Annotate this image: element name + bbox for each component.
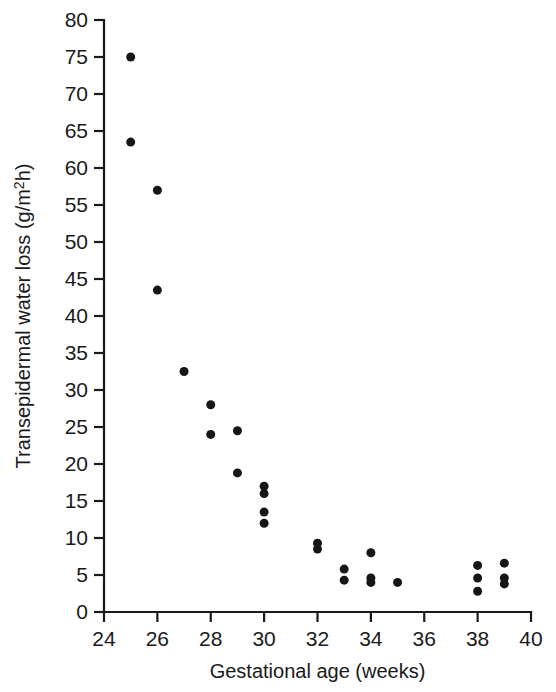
y-tick-label: 50 [65, 230, 88, 253]
data-point [473, 573, 482, 582]
data-point [500, 559, 509, 568]
plot-canvas: 05101520253035404550556065707580 2426283… [0, 0, 556, 692]
y-tick-label: 25 [65, 415, 88, 438]
data-point [260, 489, 269, 498]
data-point [340, 565, 349, 574]
data-point-layer [126, 53, 509, 596]
data-point [206, 400, 215, 409]
y-tick-label: 70 [65, 82, 88, 105]
data-point [340, 576, 349, 585]
y-tick-label: 60 [65, 156, 88, 179]
data-point [473, 561, 482, 570]
data-point [180, 367, 189, 376]
x-tick-label: 40 [519, 627, 542, 650]
data-point [366, 548, 375, 557]
data-point [233, 468, 242, 477]
y-tick-label: 45 [65, 267, 88, 290]
data-point [500, 579, 509, 588]
y-tick-label: 5 [76, 563, 88, 586]
x-axis: 242628303234363840 [92, 612, 542, 650]
y-tick-label: 0 [76, 600, 88, 623]
x-tick-label: 34 [359, 627, 383, 650]
data-point [126, 138, 135, 147]
data-point [393, 578, 402, 587]
x-tick-label: 30 [252, 627, 275, 650]
x-tick-label: 38 [466, 627, 489, 650]
x-tick-label: 26 [146, 627, 169, 650]
y-tick-label: 10 [65, 526, 88, 549]
data-point [313, 545, 322, 554]
y-tick-label: 75 [65, 45, 88, 68]
x-tick-label: 32 [306, 627, 329, 650]
data-point [473, 587, 482, 596]
data-point [260, 508, 269, 517]
y-tick-label: 80 [65, 8, 88, 31]
data-point [366, 578, 375, 587]
x-axis-title: Gestational age (weeks) [210, 660, 426, 682]
y-tick-label: 55 [65, 193, 88, 216]
scatter-plot-figure: 05101520253035404550556065707580 2426283… [0, 0, 556, 692]
y-tick-label: 15 [65, 489, 88, 512]
x-tick-label: 36 [413, 627, 436, 650]
data-point [206, 430, 215, 439]
y-axis-title: Transepidermal water loss (g/m2h) [11, 164, 34, 469]
data-point [126, 53, 135, 62]
y-axis: 05101520253035404550556065707580 [65, 8, 104, 623]
data-point [233, 426, 242, 435]
y-tick-label: 40 [65, 304, 88, 327]
data-point [153, 286, 162, 295]
data-point [260, 519, 269, 528]
x-tick-label: 28 [199, 627, 222, 650]
x-tick-label: 24 [92, 627, 116, 650]
y-tick-label: 30 [65, 378, 88, 401]
y-tick-label: 20 [65, 452, 88, 475]
y-tick-label: 35 [65, 341, 88, 364]
y-tick-label: 65 [65, 119, 88, 142]
data-point [153, 186, 162, 195]
